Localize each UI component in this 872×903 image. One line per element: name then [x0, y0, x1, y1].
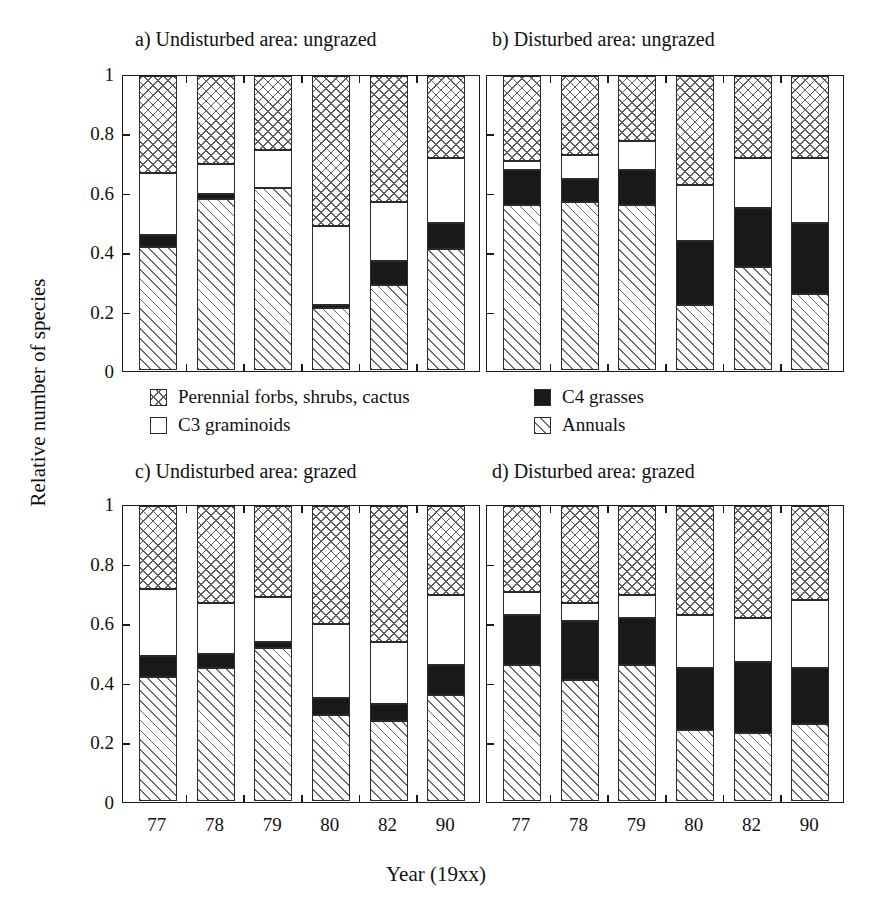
- bar-segment-annuals: [791, 724, 829, 801]
- bar-segment-c3: [312, 226, 350, 305]
- bar-segment-c4: [618, 170, 656, 205]
- y-tick-label: 0: [60, 793, 114, 812]
- x-tick-mark: [665, 505, 667, 513]
- panel-c-plot: [122, 505, 480, 803]
- x-tick-mark: [780, 795, 782, 803]
- bar-segment-annuals: [561, 202, 599, 370]
- x-tick-mark: [723, 795, 725, 803]
- x-tick-mark: [607, 795, 609, 803]
- x-tick-mark: [359, 505, 361, 513]
- bar-segment-perennial: [791, 506, 829, 600]
- x-tick-mark: [607, 505, 609, 513]
- y-tick-label: 0.4: [60, 243, 114, 262]
- bar-segment-annuals: [676, 305, 714, 370]
- x-axis-title: Year (19xx): [0, 862, 872, 887]
- x-tick-mark: [723, 75, 725, 83]
- y-tick-mark: [122, 134, 130, 136]
- y-tick-mark: [486, 253, 494, 255]
- bar-segment-c4: [561, 621, 599, 680]
- x-tick-mark: [186, 505, 188, 513]
- bar-segment-c3: [139, 173, 177, 235]
- bar-segment-perennial: [197, 506, 235, 603]
- bar-segment-c3: [254, 150, 292, 188]
- panel-title-b: b) Disturbed area: ungrazed: [492, 28, 715, 51]
- bar-segment-perennial: [503, 506, 541, 592]
- legend-label-annuals: Annuals: [562, 414, 625, 436]
- y-tick-mark: [122, 684, 130, 686]
- bar-d-77: [503, 506, 541, 801]
- bar-b-79: [618, 76, 656, 370]
- bar-segment-annuals: [139, 247, 177, 370]
- bar-d-78: [561, 506, 599, 801]
- bar-segment-perennial: [139, 506, 177, 589]
- y-tick-label: 0.6: [60, 184, 114, 203]
- x-tick-label: 90: [425, 815, 465, 834]
- x-tick-label: 77: [501, 815, 541, 834]
- x-tick-mark: [550, 364, 552, 372]
- panel-title-c: c) Undisturbed area: grazed: [135, 460, 357, 483]
- y-tick-mark: [486, 313, 494, 315]
- x-tick-mark: [243, 75, 245, 83]
- bar-b-77: [503, 76, 541, 370]
- bar-segment-perennial: [734, 506, 772, 618]
- bar-segment-c4: [427, 665, 465, 695]
- x-tick-label: 77: [137, 815, 177, 834]
- x-tick-mark: [780, 75, 782, 83]
- y-tick-mark: [486, 684, 494, 686]
- bar-segment-perennial: [734, 76, 772, 158]
- bar-segment-c3: [734, 158, 772, 208]
- bar-segment-c3: [312, 624, 350, 698]
- y-tick-mark: [122, 565, 130, 567]
- bar-c-90: [427, 506, 465, 801]
- bar-segment-perennial: [370, 506, 408, 642]
- y-tick-mark: [122, 253, 130, 255]
- x-tick-mark: [186, 75, 188, 83]
- bar-segment-c3: [561, 155, 599, 179]
- bar-segment-c3: [734, 618, 772, 662]
- x-tick-mark: [301, 795, 303, 803]
- bar-segment-perennial: [618, 76, 656, 141]
- bar-d-90: [791, 506, 829, 801]
- y-tick-label: 0.2: [60, 303, 114, 322]
- y-tick-mark: [486, 134, 494, 136]
- bar-segment-c4: [734, 662, 772, 733]
- bar-c-78: [197, 506, 235, 801]
- bar-segment-c3: [370, 642, 408, 704]
- bar-segment-c4: [676, 668, 714, 730]
- bar-segment-c4: [312, 305, 350, 308]
- bar-d-80: [676, 506, 714, 801]
- x-tick-mark: [780, 505, 782, 513]
- bar-segment-perennial: [312, 506, 350, 624]
- panel-b-plot: [486, 75, 844, 372]
- x-tick-mark: [607, 364, 609, 372]
- x-tick-mark: [416, 505, 418, 513]
- bar-segment-perennial: [139, 76, 177, 173]
- panel-title-a: a) Undisturbed area: ungrazed: [135, 28, 377, 51]
- bar-segment-annuals: [503, 665, 541, 801]
- bar-segment-c3: [618, 595, 656, 619]
- c3-swatch-icon: [150, 417, 167, 434]
- x-tick-label: 82: [368, 815, 408, 834]
- bar-segment-c3: [139, 589, 177, 657]
- bar-segment-annuals: [791, 294, 829, 370]
- bar-segment-c4: [139, 235, 177, 247]
- bar-c-79: [254, 506, 292, 801]
- c4-swatch-icon: [534, 389, 551, 406]
- bar-segment-c3: [197, 603, 235, 653]
- bar-segment-c3: [561, 603, 599, 621]
- bar-segment-annuals: [370, 721, 408, 801]
- y-axis-title: Relative number of species: [26, 223, 51, 563]
- bar-segment-perennial: [503, 76, 541, 161]
- figure-root: Relative number of species a) Undisturbe…: [0, 0, 872, 903]
- bar-segment-perennial: [676, 506, 714, 615]
- bar-segment-annuals: [312, 715, 350, 801]
- panel-title-d: d) Disturbed area: grazed: [492, 460, 695, 483]
- x-tick-label: 78: [559, 815, 599, 834]
- bar-segment-annuals: [676, 730, 714, 801]
- bar-segment-annuals: [370, 285, 408, 370]
- y-tick-mark: [122, 194, 130, 196]
- y-tick-mark: [122, 313, 130, 315]
- bar-b-90: [791, 76, 829, 370]
- bar-segment-c4: [676, 241, 714, 306]
- bar-segment-perennial: [427, 76, 465, 158]
